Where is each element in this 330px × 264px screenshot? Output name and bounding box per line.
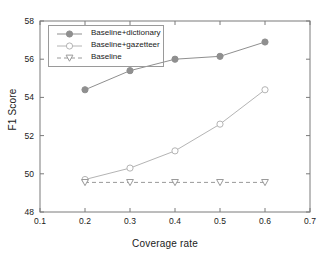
x-tick-label: 0.7 bbox=[295, 216, 325, 226]
legend-item-label: Baseline bbox=[91, 52, 122, 61]
y-tick-label: 54 bbox=[12, 92, 34, 102]
legend-item-label: Baseline+dictionary bbox=[91, 28, 161, 37]
y-tick-label: 52 bbox=[12, 131, 34, 141]
y-tick-label: 56 bbox=[12, 54, 34, 64]
x-tick-label: 0.1 bbox=[25, 216, 55, 226]
legend-item-label: Baseline+gazetteer bbox=[91, 40, 160, 49]
x-tick-label: 0.5 bbox=[205, 216, 235, 226]
y-tick-label: 48 bbox=[12, 207, 34, 217]
x-tick-label: 0.3 bbox=[115, 216, 145, 226]
y-tick-label: 50 bbox=[12, 169, 34, 179]
series-1 bbox=[82, 87, 268, 183]
x-tick-label: 0.6 bbox=[250, 216, 280, 226]
chart-figure: Baseline+dictionaryBaseline+gazetteerBas… bbox=[0, 0, 330, 264]
series-2 bbox=[82, 180, 269, 186]
x-tick-label: 0.4 bbox=[160, 216, 190, 226]
legend: Baseline+dictionaryBaseline+gazetteerBas… bbox=[48, 25, 164, 67]
x-tick-label: 0.2 bbox=[70, 216, 100, 226]
y-tick-label: 58 bbox=[12, 16, 34, 26]
x-axis-title: Coverage rate bbox=[0, 238, 330, 249]
